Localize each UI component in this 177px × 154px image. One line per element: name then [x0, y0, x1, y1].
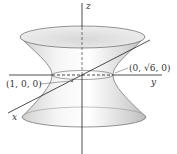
y-axis-label: y	[150, 77, 157, 87]
z-axis-label: z	[85, 1, 91, 11]
leader-sqrt6	[115, 68, 128, 73]
top-ellipse	[20, 26, 145, 48]
point-1-0-0	[71, 80, 74, 83]
x-axis-label: x	[12, 112, 17, 122]
point-label-1-0-0: (1, 0, 0)	[6, 79, 42, 89]
point-label-0-sqrt6-0: (0, √6, 0)	[129, 63, 170, 73]
hyperboloid-diagram: z y x (1, 0, 0) (0, √6, 0)	[0, 0, 177, 154]
